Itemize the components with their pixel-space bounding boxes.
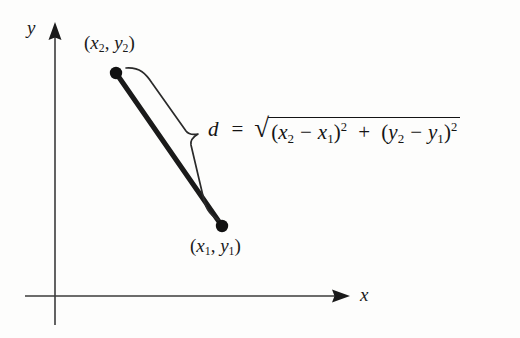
paren-close: ) xyxy=(234,235,240,256)
minus-sign: − xyxy=(294,120,318,144)
formula-variable-d: d xyxy=(208,117,226,142)
var-x2: x xyxy=(278,120,287,144)
term-x: (x2−x1)2 xyxy=(271,120,352,144)
separator: , xyxy=(105,32,115,53)
var-x: x xyxy=(196,235,204,256)
distance-formula: d = √ (x2−x1)2 + (y2−y1)2 xyxy=(208,117,460,147)
var-y: y xyxy=(114,32,122,53)
var-y1: y xyxy=(428,120,437,144)
paren-close: ) xyxy=(444,120,451,144)
upper-point-label: (x2, y2) xyxy=(84,33,135,55)
var-x: x xyxy=(90,32,98,53)
radicand: (x2−x1)2 + (y2−y1)2 xyxy=(268,117,460,147)
minus-sign: − xyxy=(404,120,428,144)
equals-sign: = xyxy=(226,117,250,142)
exponent-2: 2 xyxy=(451,120,457,134)
separator: , xyxy=(211,235,221,256)
plus-sign: + xyxy=(352,120,376,144)
x-axis-label: x xyxy=(360,285,368,304)
upper-point-dot xyxy=(110,67,122,79)
var-y2: y xyxy=(388,120,397,144)
y-axis-label: y xyxy=(27,18,35,37)
distance-formula-figure: y x (x2, y2) (x1, y1) d = √ (x2−x1)2 + (… xyxy=(0,0,520,338)
radical-expression: √ (x2−x1)2 + (y2−y1)2 xyxy=(254,117,460,147)
x-axis-arrowhead xyxy=(332,290,350,303)
lower-point-dot xyxy=(216,220,228,232)
y-axis-arrowhead xyxy=(49,22,62,40)
distance-segment xyxy=(116,73,222,226)
term-y: (y2−y1)2 xyxy=(376,120,457,144)
var-x1: x xyxy=(318,120,327,144)
lower-point-label: (x1, y1) xyxy=(190,236,241,258)
exponent-2: 2 xyxy=(341,120,347,134)
paren-close: ) xyxy=(128,32,134,53)
paren-close: ) xyxy=(334,120,341,144)
radical-sign: √ xyxy=(254,116,269,146)
var-y: y xyxy=(220,235,228,256)
figure-canvas xyxy=(0,0,520,338)
